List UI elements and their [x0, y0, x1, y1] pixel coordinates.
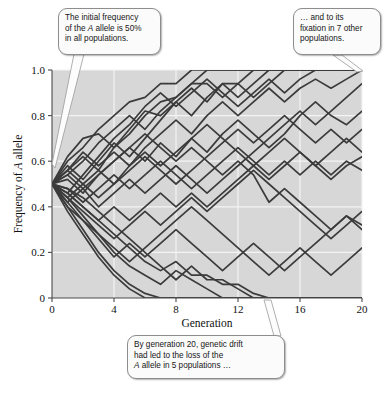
callout-initial-line3: in all populations. — [65, 34, 155, 45]
x-tick-label: 8 — [173, 303, 179, 315]
y-tick-label: 0.2 — [31, 246, 45, 258]
callout-initial-line2b: allele is 50% — [93, 24, 141, 33]
callout-initial-frequency: The initial frequency of the A allele is… — [58, 8, 161, 55]
y-tick-label: 0.8 — [31, 110, 45, 122]
x-axis-title: Generation — [181, 317, 232, 329]
y-tick-label: 0.4 — [31, 201, 45, 213]
callout-fixation-line1: … and to its — [300, 13, 375, 24]
y-tick-label: 0.6 — [31, 155, 45, 167]
y-tick-label: 0 — [40, 292, 46, 304]
x-tick-label: 20 — [357, 303, 369, 315]
callout-initial-line2a: of the — [65, 24, 88, 33]
pointer-loss — [264, 300, 281, 336]
callout-initial-line2: of the A allele is 50% — [65, 24, 155, 35]
callout-fixation-line2: fixation in 7 other — [300, 24, 375, 35]
callout-loss-line3b: allele in 5 populations … — [139, 361, 231, 370]
genetic-drift-figure: 00.20.40.60.81.0048121620 Frequency of A… — [0, 0, 388, 393]
callout-loss-line1: By generation 20, genetic drift — [134, 340, 279, 351]
x-tick-label: 4 — [111, 303, 117, 315]
callout-loss: By generation 20, genetic drift had led … — [127, 335, 285, 379]
x-tick-label: 12 — [233, 303, 244, 315]
x-tick-label: 16 — [295, 303, 307, 315]
y-axis-title: Frequency of A allele — [12, 135, 25, 234]
callout-fixation: … and to its fixation in 7 other populat… — [293, 8, 381, 55]
callout-fixation-line3: populations. — [300, 34, 375, 45]
callout-loss-line3: A allele in 5 populations … — [134, 361, 279, 372]
callout-initial-line1: The initial frequency — [65, 13, 155, 24]
callout-loss-line2: had led to the loss of the — [134, 351, 279, 362]
plot-background — [52, 70, 362, 298]
y-tick-label: 1.0 — [31, 64, 45, 76]
x-tick-label: 0 — [49, 303, 55, 315]
